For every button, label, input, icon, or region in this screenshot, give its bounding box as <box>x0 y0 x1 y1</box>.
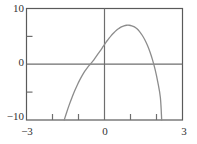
chart-screenshot: 10 0 −10 −3 0 3 <box>0 0 197 144</box>
y-tick-label-neg10: −10 <box>2 111 24 122</box>
x-tick-label-0: 0 <box>97 126 113 137</box>
plot-area <box>0 0 197 144</box>
data-curve <box>64 25 162 120</box>
y-tick-label-10: 10 <box>6 3 24 14</box>
y-tick-label-0: 0 <box>6 57 24 68</box>
x-tick-label-neg3: −3 <box>19 126 35 137</box>
x-tick-label-3: 3 <box>176 126 192 137</box>
